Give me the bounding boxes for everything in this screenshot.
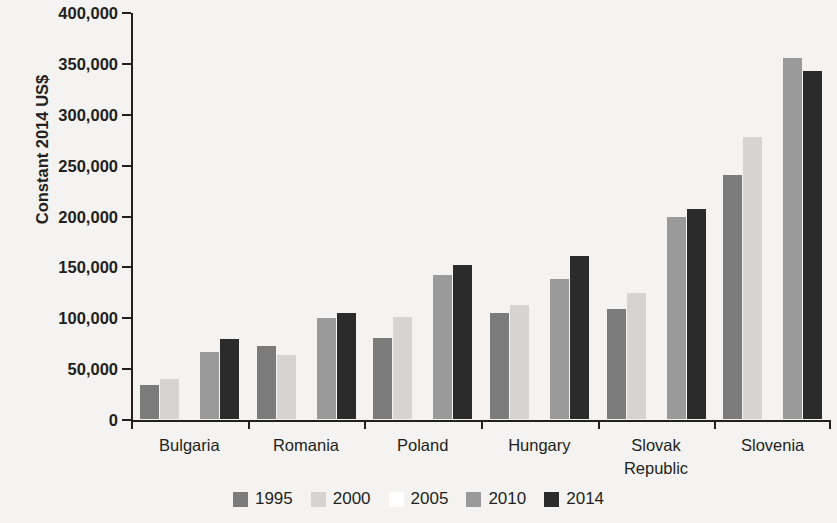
y-tick-label: 150,000 [58, 258, 118, 277]
legend-label-2010: 2010 [488, 489, 526, 509]
category-label-slovak-republic: Slovak Republic [598, 434, 715, 480]
y-tick-label: 50,000 [68, 360, 118, 379]
bar-hungary-2010 [550, 279, 569, 419]
x-tick [598, 420, 600, 429]
y-tick-label: 250,000 [58, 156, 118, 175]
bar-slovak-republic-1995 [607, 309, 626, 419]
legend-swatch-2010 [466, 492, 481, 507]
y-tick [122, 114, 131, 116]
bar-poland-2014 [453, 265, 472, 419]
bar-group-poland [373, 12, 472, 419]
y-tick [122, 419, 131, 421]
plot-area: 050,000100,000150,000200,000250,000300,0… [131, 13, 831, 420]
bar-slovak-republic-2000 [627, 293, 646, 419]
y-tick-label: 300,000 [58, 105, 118, 124]
x-tick [714, 420, 716, 429]
legend-label-2005: 2005 [411, 489, 449, 509]
bar-romania-2010 [317, 318, 336, 419]
x-tick [481, 420, 483, 429]
bar-group-slovak-republic [607, 12, 706, 419]
bar-slovak-republic-2010 [667, 217, 686, 419]
legend-item-2014[interactable]: 2014 [544, 489, 604, 509]
bar-group-hungary [490, 12, 589, 419]
category-label-bulgaria: Bulgaria [131, 434, 248, 457]
y-tick-label: 0 [109, 411, 118, 430]
bar-hungary-2000 [510, 305, 529, 419]
bar-bulgaria-1995 [140, 385, 159, 419]
x-tick [829, 420, 831, 429]
x-tick [131, 420, 133, 429]
y-tick [122, 216, 131, 218]
y-tick-label: 200,000 [58, 207, 118, 226]
x-tick [364, 420, 366, 429]
y-tick [122, 63, 131, 65]
y-tick [122, 317, 131, 319]
bar-slovak-republic-2014 [687, 209, 706, 419]
bar-romania-1995 [257, 346, 276, 419]
bar-chart: Constant 2014 US$ 050,000100,000150,0002… [0, 0, 837, 523]
bar-romania-2000 [277, 355, 296, 419]
legend-swatch-2014 [544, 492, 559, 507]
y-axis-title: Constant 2014 US$ [33, 20, 52, 280]
bar-group-romania [257, 12, 356, 419]
bar-bulgaria-2010 [200, 352, 219, 419]
bar-slovenia-2010 [783, 58, 802, 419]
legend-label-2014: 2014 [566, 489, 604, 509]
y-tick [122, 165, 131, 167]
bar-poland-2010 [433, 275, 452, 419]
chart-legend: 19952000200520102014 [0, 489, 837, 509]
bar-poland-1995 [373, 338, 392, 419]
legend-swatch-2005 [389, 492, 404, 507]
y-tick [122, 266, 131, 268]
bar-romania-2014 [337, 313, 356, 419]
bar-slovenia-2000 [743, 137, 762, 419]
bar-group-bulgaria [140, 12, 239, 419]
y-tick-label: 350,000 [58, 54, 118, 73]
legend-swatch-1995 [233, 492, 248, 507]
x-tick [248, 420, 250, 429]
bar-slovenia-1995 [723, 175, 742, 419]
legend-label-2000: 2000 [333, 489, 371, 509]
category-label-slovenia: Slovenia [714, 434, 831, 457]
category-label-hungary: Hungary [481, 434, 598, 457]
legend-item-1995[interactable]: 1995 [233, 489, 293, 509]
legend-item-2000[interactable]: 2000 [311, 489, 371, 509]
bar-hungary-1995 [490, 313, 509, 419]
category-label-romania: Romania [248, 434, 365, 457]
legend-item-2010[interactable]: 2010 [466, 489, 526, 509]
y-tick-label: 100,000 [58, 309, 118, 328]
bar-bulgaria-2014 [220, 339, 239, 419]
legend-swatch-2000 [311, 492, 326, 507]
category-label-poland: Poland [364, 434, 481, 457]
bar-slovenia-2014 [803, 71, 822, 419]
bar-poland-2000 [393, 317, 412, 419]
bar-hungary-2014 [570, 256, 589, 419]
legend-label-1995: 1995 [255, 489, 293, 509]
y-axis-line [131, 13, 133, 421]
y-tick [122, 12, 131, 14]
bar-bulgaria-2000 [160, 379, 179, 419]
legend-item-2005[interactable]: 2005 [389, 489, 449, 509]
y-tick-label: 400,000 [58, 4, 118, 23]
y-tick [122, 368, 131, 370]
bar-group-slovenia [723, 12, 822, 419]
